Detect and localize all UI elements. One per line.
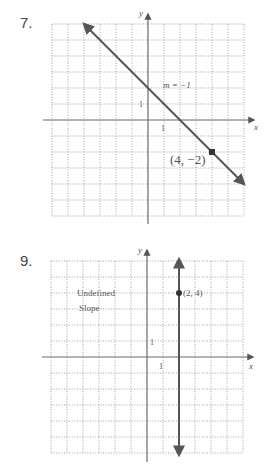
point-label-7: (4, −2)	[170, 152, 206, 167]
y-axis-label-9: y	[137, 245, 142, 255]
point-label-9: (2, 4)	[183, 288, 203, 298]
x-axis-label-7: x	[253, 122, 258, 132]
point-4-neg2	[209, 149, 215, 155]
x-axis-label-9: x	[248, 361, 253, 371]
slope-annotation-7: m = −1	[163, 80, 191, 90]
y-axis-label-7: y	[138, 8, 143, 18]
x-tick-1-9: 1	[159, 362, 163, 371]
x-tick-1-7: 1	[161, 124, 165, 133]
graph-9: x y 1 1 (2, 4) Undefined Slope	[42, 245, 253, 462]
y-tick-1-9: 1	[150, 338, 154, 347]
graphs-canvas: x y 1 1 m = −1 (4, −2) x y 1 1 (2, 4) Un…	[0, 0, 274, 468]
point-2-4	[176, 290, 182, 296]
graph-7: x y 1 1 m = −1 (4, −2)	[43, 8, 258, 224]
undefined-label-9: Undefined	[77, 288, 115, 298]
slope-label-9: Slope	[79, 303, 100, 313]
y-tick-1-7: 1	[139, 100, 143, 109]
